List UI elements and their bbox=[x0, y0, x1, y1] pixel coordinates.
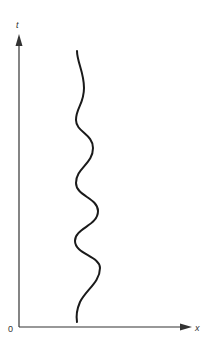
spacetime-diagram: t x 0 bbox=[0, 0, 207, 348]
t-axis-arrowhead-icon bbox=[16, 34, 23, 46]
origin-label: 0 bbox=[8, 324, 13, 334]
worldline-curve bbox=[75, 51, 100, 322]
x-axis-arrowhead-icon bbox=[180, 324, 192, 331]
x-axis-label: x bbox=[194, 323, 200, 333]
t-axis-label: t bbox=[16, 20, 19, 30]
